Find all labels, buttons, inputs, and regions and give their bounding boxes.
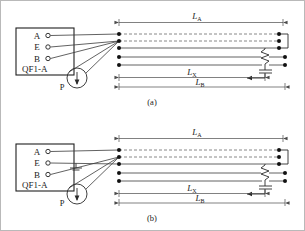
lead-b-panel-b [51,157,120,175]
terminal-ring-a-panel-a [46,33,50,37]
dimension-label-lb-a: LB [194,77,204,88]
node-right-2-a [277,39,281,43]
terminal-ring-b-panel-b [46,172,50,176]
dimension-lb-b: LB [119,193,285,206]
instrument-box-label-a: QF1-A [22,64,48,74]
node-right-4-a [283,55,287,59]
lead-a-panel-b [51,150,120,152]
dimension-label-la-b: LA [191,127,202,138]
terminal-ring-e-panel-b [46,161,50,165]
terminal-ring-a-panel-b [46,149,50,153]
dimension-lx-a: LX [119,67,265,81]
leads-a [51,34,120,59]
node-right-4-b [283,171,287,175]
dimension-lb-a: LB [119,77,285,90]
leads-b [51,150,120,175]
terminal-label-e-panel-b: E [34,158,40,168]
node-left-4-b [117,171,121,175]
node-right-5-b [283,179,287,183]
capacitor-arrow-a [247,76,252,80]
node-left-3-a [117,46,121,50]
terminal-ring-e-panel-a [46,45,50,49]
node-right-3-b [277,162,281,166]
lead-a-panel-a [51,34,120,36]
panel-caption-a: (a) [147,97,157,107]
node-left-5-a [117,63,121,67]
node-left-3-b [117,162,121,166]
terminal-ring-b-panel-a [46,56,50,60]
node-left-2-a [117,39,121,43]
node-right-1-b [277,148,281,152]
node-left-4-a [117,55,121,59]
capacitor-b [247,186,272,196]
dimension-la-a: LA [119,11,283,26]
panel-caption-b: (b) [147,213,157,223]
capacitor-arrow-b [247,192,252,196]
dimension-lx-b: LX [119,183,265,197]
node-left-5-b [117,179,121,183]
terminal-label-e-panel-a: E [34,42,40,52]
dimension-la-b: LA [119,127,283,142]
figure-root: LA A E B QF1-A [0,0,305,231]
resistor-zigzag-b [261,165,269,180]
fault-resistor-a [261,48,269,70]
source-arrow-b [75,196,80,202]
terminal-label-a-panel-b: A [34,147,41,157]
node-left-1-a [117,32,121,36]
panel-a: LA A E B QF1-A [16,11,288,107]
instrument-box-label-b: QF1-A [22,180,48,190]
node-right-3-a [277,46,281,50]
resistor-zigzag-a [261,49,269,64]
panel-b: LA A E B QF1-A [16,127,288,223]
terminal-label-a-panel-a: A [34,31,41,41]
conductors-b [117,148,288,183]
dimension-label-la-a: LA [191,11,202,22]
node-right-5-a [283,63,287,67]
node-left-2-b [117,155,121,159]
node-right-1-a [277,32,281,36]
source-arrow-a [75,80,80,86]
node-right-2-b [277,155,281,159]
node-left-1-b [117,148,121,152]
terminal-label-b-panel-b: B [34,170,40,180]
schematic-svg: LA A E B QF1-A [0,0,305,231]
conductors-a [117,32,288,67]
terminal-label-b-panel-a: B [34,54,40,64]
fault-resistor-b [261,164,269,186]
source-label-b: P [60,198,65,208]
source-label-a: P [60,82,65,92]
dimension-label-lb-b: LB [194,193,204,204]
capacitor-a [247,70,272,80]
